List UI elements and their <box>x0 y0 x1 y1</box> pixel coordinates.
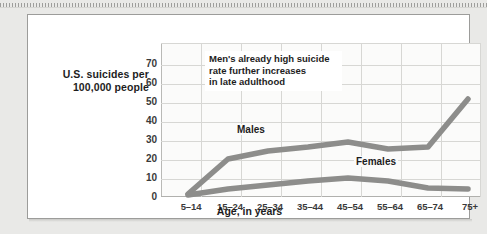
y-tick-label: 40 <box>133 115 157 126</box>
plot-area: 70 60 50 40 30 20 10 0 Males Females Men… <box>161 43 481 197</box>
series-line-females <box>188 178 468 195</box>
figure-root: U.S. suicides per 100,000 people 70 <box>0 0 487 234</box>
top-rule-line <box>0 7 487 8</box>
panel-shadow <box>29 219 472 222</box>
x-axis-title: Age, in years <box>28 205 471 217</box>
y-tick-label: 0 <box>133 191 157 202</box>
y-tick-label: 30 <box>133 134 157 145</box>
series-label-males: Males <box>235 124 267 135</box>
y-tick-label: 50 <box>133 96 157 107</box>
y-tick-label: 70 <box>133 58 157 69</box>
figure-panel: U.S. suicides per 100,000 people 70 <box>27 14 470 219</box>
chart-annotation: Men's already high suicide rate further … <box>205 51 342 91</box>
y-tick-label: 20 <box>133 153 157 164</box>
y-tick-label: 10 <box>133 172 157 183</box>
y-tick-label: 60 <box>133 77 157 88</box>
series-label-females: Females <box>354 156 398 167</box>
